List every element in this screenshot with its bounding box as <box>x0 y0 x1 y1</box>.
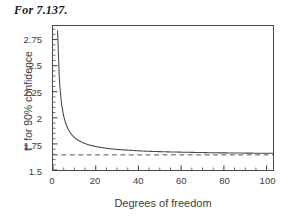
y-axis-title-wrapper: t* for 90% confidence <box>8 55 24 150</box>
x-tick-label: 0 <box>49 175 54 186</box>
plot-frame <box>52 25 274 171</box>
x-minor-ticks <box>64 168 256 170</box>
x-axis-tick-labels: 020406080100 <box>52 175 274 189</box>
figure-caption: For 7.137. <box>14 3 68 18</box>
x-tick-label: 80 <box>219 175 230 186</box>
x-tick-label: 40 <box>133 175 144 186</box>
x-tick-label: 20 <box>90 175 101 186</box>
y-tick-label: 2 <box>37 113 42 124</box>
t-star-curve <box>58 31 273 154</box>
x-tick-label: 100 <box>260 175 276 186</box>
figure-container: For 7.137. 1.51.7522.252.52.75 020406080… <box>0 0 294 221</box>
x-axis-title: Degrees of freedom <box>52 197 274 209</box>
y-tick-label: 1.5 <box>29 166 42 177</box>
y-major-ticks <box>53 40 57 170</box>
y-axis-title: t* for 90% confidence <box>22 36 34 166</box>
x-tick-label: 60 <box>176 175 187 186</box>
plot-canvas <box>53 26 273 170</box>
